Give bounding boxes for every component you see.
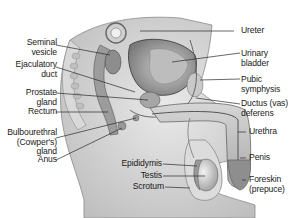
label-line: symphysis [241,85,280,95]
label-foreskin: Foreskin (prepuce) [249,175,285,194]
label-line: Ureter [241,26,264,36]
label-prostate-gland: Prostate gland [26,88,57,107]
label-rectum: Rectum [28,107,57,117]
label-testis: Testis [141,171,162,181]
label-line: Rectum [28,107,57,117]
label-line: Urethra [249,127,277,137]
label-scrotum: Scrotum [133,182,164,192]
label-ductus-deferens: Ductus (vas) deferens [241,99,288,118]
label-line: Testis [141,171,162,181]
label-bulbourethral-gland: Bulbourethral (Cowper's) gland [7,128,57,157]
anatomy-diagram: Seminal vesicle Ejaculatory duct Prostat… [0,0,295,218]
label-epididymis: Epididymis [121,159,162,169]
label-line: Penis [249,153,270,163]
label-penis: Penis [249,153,270,163]
label-urethra: Urethra [249,127,277,137]
label-line: (prepuce) [249,185,285,195]
pubic-symphysis-shape [187,73,203,97]
label-ureter: Ureter [241,26,264,36]
prostate-shape [140,92,160,108]
label-line: bladder [241,59,269,69]
label-anus: Anus [38,155,57,165]
label-pubic-symphysis: Pubic symphysis [241,75,280,94]
label-line: Anus [38,155,57,165]
label-ejaculatory-duct: Ejaculatory duct [16,60,57,79]
label-seminal-vesicle: Seminal vesicle [27,38,57,57]
label-line: Epididymis [121,159,162,169]
label-line: deferens [241,109,288,119]
label-line: duct [16,70,57,80]
label-line: vesicle [27,48,57,58]
seminal-vesicle-shape [105,50,121,74]
label-line: Scrotum [133,182,164,192]
label-urinary-bladder: Urinary bladder [241,49,269,68]
